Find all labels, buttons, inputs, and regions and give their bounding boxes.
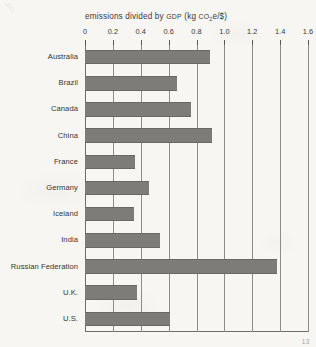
chart-title: emissions divided by GDP (kg CO2e/$) [85,12,227,21]
x-axis-tick-label: 1.0 [219,27,230,36]
bar [85,285,137,300]
bar [85,259,277,274]
x-axis-tick-mark [308,40,309,45]
category-label: China [58,131,78,140]
x-axis-tick-mark [197,40,198,45]
gridline [280,44,281,332]
emissions-per-gdp-bar-chart: emissions divided by GDP (kg CO2e/$) 00.… [0,0,316,347]
x-axis-tick-label: 0.8 [191,27,202,36]
gridline [308,44,309,332]
x-axis-tick-labels: 00.20.40.60.81.01.21.41.6 [0,27,316,39]
x-axis-tick-label: 0.6 [163,27,174,36]
category-label: U.K. [63,288,78,297]
bar [85,312,170,327]
x-axis-tick-mark [141,40,142,45]
category-label: Brazil [59,78,78,87]
category-label: Iceland [53,209,78,218]
x-axis-tick-mark [169,40,170,45]
bar [85,128,212,143]
bar [85,50,210,65]
bar [85,207,134,222]
chart-title-co: CO [199,13,210,20]
x-axis-tick-label: 0 [83,27,87,36]
x-axis-tick-mark [224,40,225,45]
x-axis-tick-mark [280,40,281,45]
x-axis-tick-mark [85,40,86,45]
category-label: Canada [51,104,78,113]
chart-title-unit: e/$) [212,12,227,21]
category-label: U.S. [63,314,78,323]
chart-title-gdp: GDP [166,13,182,20]
category-label: Australia [48,52,78,61]
gridline [224,44,225,332]
gridline [197,44,198,332]
bar [85,181,149,196]
chart-title-subscript: 2 [209,16,212,22]
category-label: France [54,157,78,166]
bar [85,233,160,248]
bar [85,76,177,91]
x-axis-tick-label: 1.2 [247,27,258,36]
chart-title-lead: emissions divided by [85,12,166,21]
plot-area [85,44,308,332]
x-axis-tick-label: 1.6 [303,27,314,36]
x-axis-tick-mark [252,40,253,45]
bar [85,102,191,117]
x-axis-tick-label: 1.4 [275,27,286,36]
x-axis-tick-mark [113,40,114,45]
category-label: Russian Federation [11,262,78,271]
gridline [252,44,253,332]
x-axis-tick-label: 0.4 [136,27,147,36]
x-axis-tick-label: 0.2 [108,27,119,36]
page-number: 13 [302,338,310,345]
category-label: India [61,235,78,244]
category-label: Germany [46,183,78,192]
bar [85,155,135,170]
chart-title-mid: (kg [182,12,199,21]
